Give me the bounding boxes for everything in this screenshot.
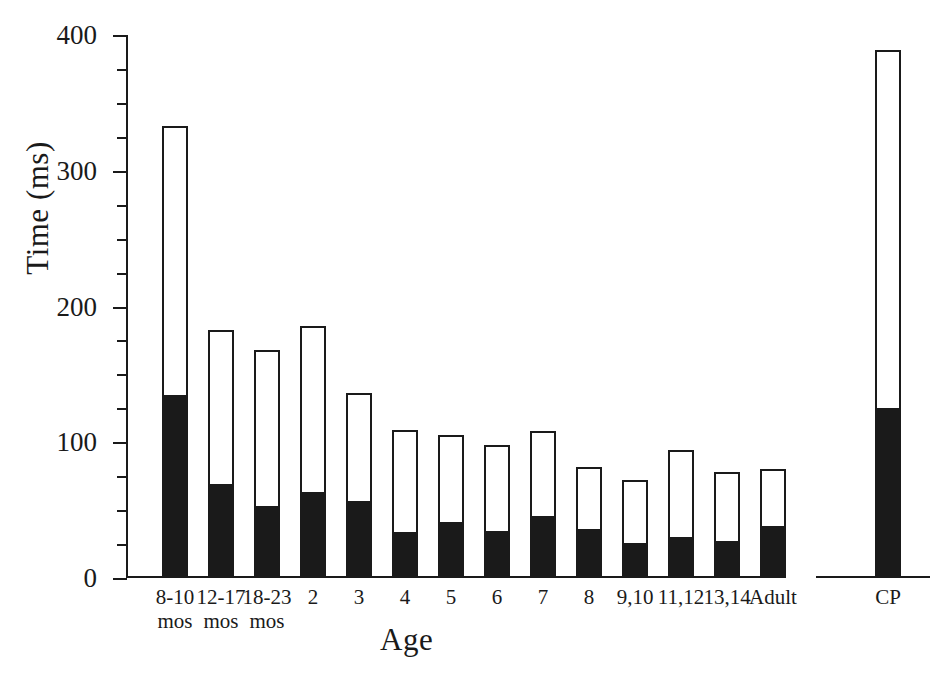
bar-filled-segment: [164, 395, 186, 576]
bar: [346, 393, 372, 578]
category-label-line2: mos: [197, 610, 246, 634]
bar-filled-segment: [578, 529, 600, 576]
bar: [300, 326, 326, 578]
bar: [576, 467, 602, 578]
y-tick-minor: [117, 205, 127, 207]
bar-filled-segment: [670, 537, 692, 576]
y-tick-label: 400: [57, 20, 98, 51]
bar-filled-segment: [762, 526, 784, 576]
bar: [484, 445, 510, 578]
plot-area: 0100200300400 8-10mos12-17mos18-23mos234…: [126, 30, 906, 582]
category-label-line2: mos: [243, 610, 292, 634]
category-label: 2: [308, 586, 319, 610]
category-label-line1: 6: [492, 585, 503, 609]
category-label-line1: 2: [308, 585, 319, 609]
category-label: 13,14: [703, 586, 750, 610]
category-label: 8: [584, 586, 595, 610]
y-tick-minor: [117, 103, 127, 105]
y-tick-label: 300: [57, 155, 98, 186]
category-label-line1: 7: [538, 585, 549, 609]
category-label-line1: 4: [400, 585, 411, 609]
y-tick-minor: [117, 510, 127, 512]
category-label: Adult: [749, 586, 797, 610]
y-tick-minor: [117, 69, 127, 71]
category-label: 7: [538, 586, 549, 610]
bar-filled-segment: [716, 541, 738, 576]
y-tick-minor: [117, 273, 127, 275]
category-label: 4: [400, 586, 411, 610]
bar: [875, 50, 901, 578]
bar-filled-segment: [532, 516, 554, 576]
category-label-line1: Adult: [749, 585, 797, 609]
bar: [254, 350, 280, 578]
bar: [438, 435, 464, 578]
y-tick-minor: [117, 544, 127, 546]
bar: [530, 431, 556, 578]
bar: [208, 330, 234, 578]
category-label-line1: 11,12: [658, 585, 704, 609]
category-label: 9,10: [617, 586, 654, 610]
category-label: 8-10mos: [156, 586, 195, 633]
bar: [392, 430, 418, 578]
category-label: 18-23mos: [243, 586, 292, 633]
bar-filled-segment: [302, 492, 324, 576]
category-label-line1: CP: [875, 585, 901, 609]
bar-filled-segment: [210, 484, 232, 576]
category-label-line1: 12-17: [197, 585, 246, 609]
category-label-line1: 13,14: [703, 585, 750, 609]
bar-filled-segment: [624, 543, 646, 576]
x-axis-spine-right: [816, 576, 930, 578]
y-tick-label: 100: [57, 427, 98, 458]
y-tick-major: 200: [113, 307, 127, 309]
category-label: 12-17mos: [197, 586, 246, 633]
category-label-line1: 18-23: [243, 585, 292, 609]
bar-filled-segment: [440, 522, 462, 576]
category-label: 6: [492, 586, 503, 610]
category-label-line1: 8: [584, 585, 595, 609]
bar-filled-segment: [394, 532, 416, 576]
y-tick-major: 100: [113, 442, 127, 444]
bar-chart-figure: Time (ms) Age 0100200300400 8-10mos12-17…: [0, 0, 935, 686]
y-tick-minor: [117, 408, 127, 410]
bar-filled-segment: [877, 408, 899, 576]
category-label: 5: [446, 586, 457, 610]
category-label-line1: 5: [446, 585, 457, 609]
bar: [622, 480, 648, 578]
bar-filled-segment: [486, 531, 508, 577]
y-tick-minor: [117, 137, 127, 139]
bar: [668, 450, 694, 578]
y-tick-minor: [117, 239, 127, 241]
bar-filled-segment: [256, 506, 278, 576]
y-tick-major: 400: [113, 35, 127, 37]
y-tick-minor: [117, 476, 127, 478]
y-tick-major: 0: [113, 578, 127, 580]
bar: [162, 126, 188, 578]
category-label-line2: mos: [156, 610, 195, 634]
category-label: 3: [354, 586, 365, 610]
y-tick-minor: [117, 374, 127, 376]
y-tick-label: 200: [57, 291, 98, 322]
y-tick-label: 0: [84, 563, 98, 594]
y-tick-major: 300: [113, 171, 127, 173]
bar-filled-segment: [348, 501, 370, 576]
x-axis-label: Age: [380, 622, 433, 658]
category-label: 11,12: [658, 586, 704, 610]
category-label-line1: 8-10: [156, 585, 195, 609]
y-tick-minor: [117, 340, 127, 342]
category-label: CP: [875, 586, 901, 610]
bar: [760, 469, 786, 578]
y-axis-label: Time (ms): [20, 58, 56, 358]
category-label-line1: 9,10: [617, 585, 654, 609]
bar: [714, 472, 740, 578]
category-label-line1: 3: [354, 585, 365, 609]
